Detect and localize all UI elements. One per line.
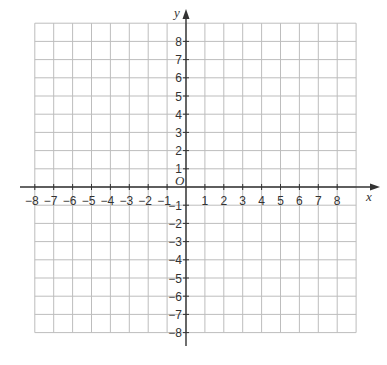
x-tick-label: −5 bbox=[82, 194, 96, 208]
y-axis-arrow-icon bbox=[183, 9, 190, 19]
x-tick-label: 3 bbox=[239, 194, 246, 208]
x-tick-label: 5 bbox=[277, 194, 284, 208]
y-axis-label: y bbox=[172, 5, 180, 20]
y-tick-label: 2 bbox=[175, 144, 182, 158]
origin-label: O bbox=[175, 173, 185, 188]
x-tick-label: 2 bbox=[220, 194, 227, 208]
x-axis-label: x bbox=[365, 189, 372, 204]
y-tick-label: −6 bbox=[168, 290, 182, 304]
x-tick-label: 6 bbox=[296, 194, 303, 208]
y-tick-label: 8 bbox=[175, 35, 182, 49]
x-tick-label: −2 bbox=[138, 194, 152, 208]
x-tick-label: −6 bbox=[63, 194, 77, 208]
grid-lines bbox=[35, 23, 356, 332]
y-tick-label: 4 bbox=[175, 108, 182, 122]
x-tick-label: −7 bbox=[44, 194, 58, 208]
y-tick-label: −3 bbox=[168, 235, 182, 249]
y-tick-label: −8 bbox=[168, 326, 182, 340]
x-tick-label: 7 bbox=[315, 194, 322, 208]
y-tick-label: −4 bbox=[168, 253, 182, 267]
y-tick-label: −2 bbox=[168, 217, 182, 231]
x-tick-label: 1 bbox=[202, 194, 209, 208]
y-tick-label: 3 bbox=[175, 126, 182, 140]
x-tick-label: 4 bbox=[258, 194, 265, 208]
x-tick-label: 8 bbox=[334, 194, 341, 208]
coordinate-grid: −8−7−6−5−4−3−2−112345678−8−7−6−5−4−3−2−1… bbox=[0, 0, 387, 365]
x-tick-label: −4 bbox=[101, 194, 115, 208]
x-tick-label: −8 bbox=[25, 194, 39, 208]
y-tick-label: −7 bbox=[168, 308, 182, 322]
y-tick-label: −1 bbox=[168, 199, 182, 213]
x-tick-label: −3 bbox=[119, 194, 133, 208]
y-tick-label: 5 bbox=[175, 90, 182, 104]
y-tick-label: 6 bbox=[175, 71, 182, 85]
y-tick-label: 7 bbox=[175, 53, 182, 67]
y-tick-label: −5 bbox=[168, 272, 182, 286]
